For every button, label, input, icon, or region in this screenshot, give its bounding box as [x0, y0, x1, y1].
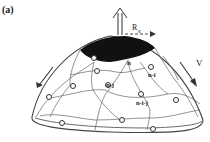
node-label-n: n	[127, 59, 131, 67]
node-circle	[60, 121, 65, 126]
radius-arrow-icon	[125, 31, 156, 37]
up-arrow-icon	[113, 8, 127, 35]
figure: (a)	[0, 0, 210, 142]
node-circle	[151, 127, 156, 132]
node-circle	[120, 118, 125, 123]
node-circle	[139, 92, 144, 97]
node-label-n-i-j: n-i-j	[136, 99, 148, 106]
velocity-label: V	[196, 58, 203, 68]
node-circle	[95, 69, 100, 74]
node-circle	[174, 98, 179, 103]
node-label-n-j: n-j	[106, 81, 114, 88]
velocity-arrow-right-icon	[180, 62, 197, 87]
radius-subscript: g	[138, 28, 141, 33]
dome-diagram: R g V n n-i n-j n-i-j	[0, 0, 210, 142]
node-label-n-i: n-i	[148, 71, 156, 78]
panel-label: (a)	[2, 4, 14, 15]
node-circle	[47, 95, 52, 100]
node-circle	[92, 56, 97, 61]
node-circle	[71, 84, 76, 89]
node-circle	[149, 65, 154, 70]
